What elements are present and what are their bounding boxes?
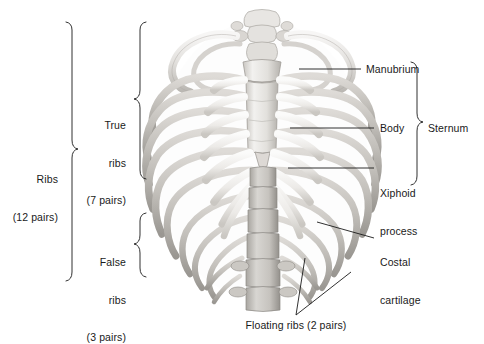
label-costal-cartilage: Costal cartilage xyxy=(380,231,421,319)
label-true-ribs-line1: True xyxy=(68,119,126,132)
label-false-ribs: False ribs (3 pairs) xyxy=(68,231,126,344)
label-manubrium: Manubrium xyxy=(366,63,419,76)
label-ribs-line1: Ribs xyxy=(0,173,58,186)
label-false-ribs-line2: ribs xyxy=(68,294,126,307)
label-true-ribs-line2: ribs xyxy=(68,157,126,170)
label-true-ribs: True ribs (7 pairs) xyxy=(68,94,126,219)
label-costal-cartilage-line2: cartilage xyxy=(380,294,421,307)
label-ribs: Ribs (12 pairs) xyxy=(0,148,58,236)
label-floating-ribs: Floating ribs (2 pairs) xyxy=(196,319,396,332)
thoracic-cage-illustration xyxy=(146,10,378,312)
label-sternum: Sternum xyxy=(428,122,468,135)
label-body: Body xyxy=(380,122,404,135)
label-xiphoid-line1: Xiphoid xyxy=(380,187,417,200)
label-ribs-line2: (12 pairs) xyxy=(0,211,58,224)
label-costal-cartilage-line1: Costal xyxy=(380,256,421,269)
label-false-ribs-line1: False xyxy=(68,256,126,269)
label-true-ribs-line3: (7 pairs) xyxy=(68,194,126,207)
brace-false-ribs xyxy=(134,213,146,277)
label-false-ribs-line3: (3 pairs) xyxy=(68,331,126,344)
